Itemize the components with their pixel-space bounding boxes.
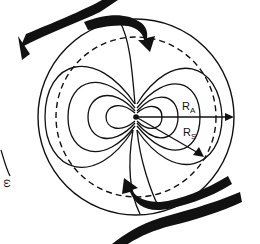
ra-arrow — [136, 113, 234, 121]
rotation-arc — [1, 150, 10, 176]
ra-label: RA — [182, 100, 196, 115]
magnetosphere-diagram: RA RS ω — [0, 0, 260, 244]
omega-symbol: ω — [2, 179, 14, 188]
rs-label: RS — [183, 126, 196, 141]
top-flow-arrow — [18, 0, 155, 60]
